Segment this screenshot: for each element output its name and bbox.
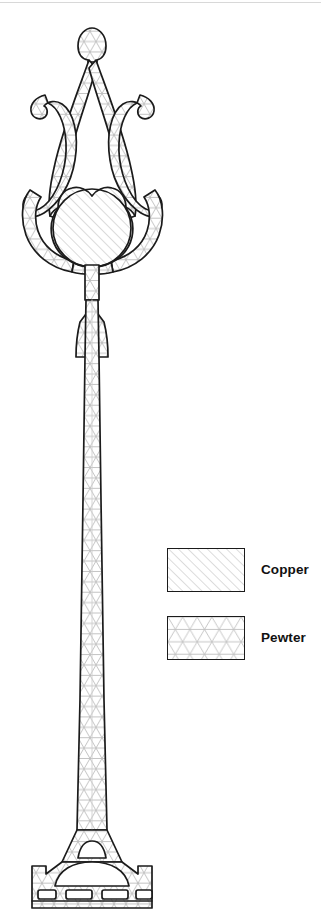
- legend-item-copper: Copper: [167, 548, 317, 592]
- base-slot-4: [136, 890, 152, 899]
- base-slot-3: [102, 890, 128, 899]
- base-slot-2: [66, 890, 92, 899]
- material-legend: Copper: [167, 548, 317, 684]
- technical-illustration: [0, 0, 321, 924]
- base-slot-1: [38, 890, 56, 899]
- neck: [85, 265, 99, 300]
- legend-label-copper: Copper: [261, 563, 309, 577]
- top-cap: [78, 28, 106, 62]
- figure-canvas: Copper: [0, 0, 321, 924]
- legend-label-pewter: Pewter: [261, 631, 306, 645]
- legend-item-pewter: Pewter: [167, 616, 317, 660]
- legend-swatch-copper: [167, 548, 245, 592]
- legend-swatch-pewter: [167, 616, 245, 660]
